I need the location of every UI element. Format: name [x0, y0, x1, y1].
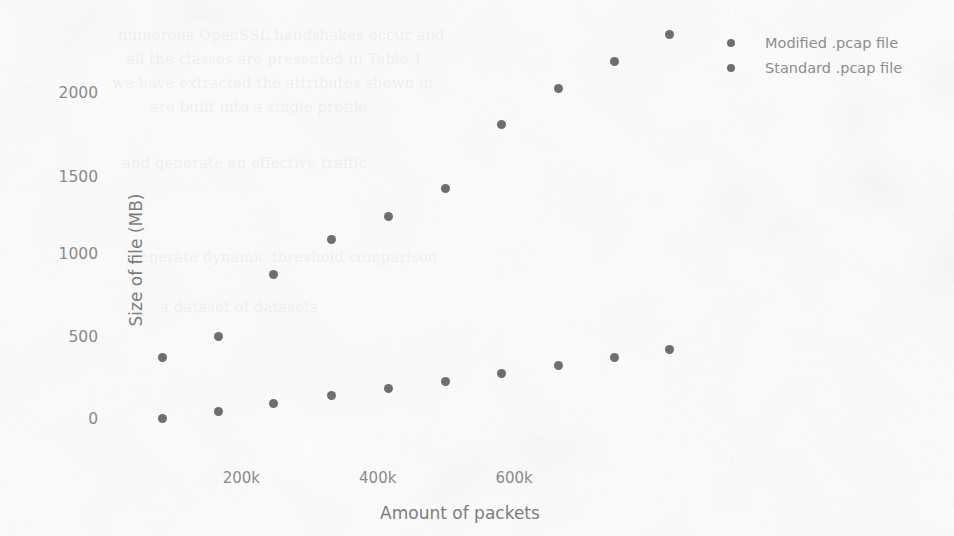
data-point [497, 369, 506, 378]
legend-item-label: Modified .pcap file [765, 35, 898, 51]
filled-circle-marker-icon [727, 64, 735, 72]
legend: Modified .pcap file Standard .pcap file [727, 30, 942, 80]
x-tick-label: 400k [359, 469, 396, 487]
filled-circle-marker-icon [727, 39, 735, 47]
scatter-plot-figure: numerous OpenSSL handshakes occur and al… [0, 0, 954, 536]
data-point [665, 30, 674, 39]
data-point [214, 407, 223, 416]
data-point [610, 353, 619, 362]
plot-area: 200k 400k 600k Amount of packets Size of… [105, 22, 705, 434]
data-point [269, 270, 278, 279]
legend-item-standard: Standard .pcap file [727, 55, 942, 80]
y-axis-label: Size of file (MB) [126, 160, 146, 360]
data-point [269, 399, 278, 408]
data-point [497, 120, 506, 129]
data-point [214, 332, 223, 341]
data-point [554, 361, 563, 370]
legend-item-modified: Modified .pcap file [727, 30, 942, 55]
x-tick-label: 600k [495, 469, 532, 487]
x-tick-label: 200k [223, 469, 260, 487]
y-axis-tick-labels: 2000 1500 1000 500 0 [0, 0, 98, 536]
x-axis-label: Amount of packets [105, 503, 815, 523]
y-tick-label: 1000 [59, 245, 98, 263]
y-tick-label: 2000 [59, 84, 98, 102]
plot-background [105, 22, 705, 434]
data-point [327, 235, 336, 244]
y-tick-label: 0 [88, 410, 98, 428]
y-tick-label: 1500 [59, 168, 98, 186]
y-tick-label: 500 [68, 328, 98, 346]
data-point [554, 84, 563, 93]
legend-item-label: Standard .pcap file [765, 60, 902, 76]
